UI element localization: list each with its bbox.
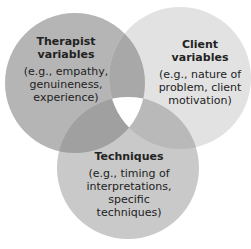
client-title: Client variables xyxy=(152,38,248,64)
therapist-description: (e.g., empathy, genuineness, experience) xyxy=(18,65,114,104)
client-label: Client variables (e.g., nature of proble… xyxy=(152,38,248,107)
client-description: (e.g., nature of problem, client motivat… xyxy=(152,68,248,107)
techniques-label: Techniques (e.g., timing of interpretati… xyxy=(80,150,178,219)
techniques-description: (e.g., timing of interpretations, specif… xyxy=(80,167,178,219)
therapist-label: Therapist variables (e.g., empathy, genu… xyxy=(18,35,114,104)
techniques-title: Techniques xyxy=(80,150,178,163)
therapist-title: Therapist variables xyxy=(18,35,114,61)
